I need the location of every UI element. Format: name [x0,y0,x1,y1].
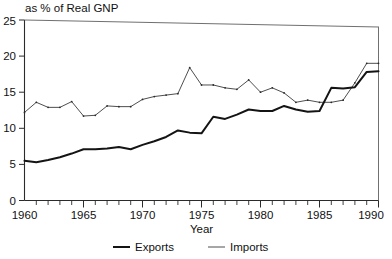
x-tick-label-1960: 1960 [12,209,38,221]
data-point-imports [71,101,73,103]
series-layer [24,62,380,162]
data-point-imports [342,99,344,101]
data-point-imports [59,106,61,108]
data-point-imports [35,101,37,103]
data-point-imports [106,105,108,107]
data-point-imports [283,92,285,94]
y-tick-label-15: 15 [3,86,16,98]
y-axis-ticks: 0 5 10 15 20 25 [3,15,24,207]
data-point-imports [378,62,380,64]
data-point-imports [295,101,297,103]
data-point-imports [236,88,238,90]
data-point-imports [83,115,85,117]
y-tick-label-5: 5 [10,158,16,170]
data-point-imports [366,62,368,64]
y-tick-label-0: 0 [10,195,16,207]
chart-title: as % of Real GNP [25,2,119,14]
data-point-imports [330,101,332,103]
x-axis-title-group: Year [190,223,213,235]
chart-title-group: as % of Real GNP [25,2,119,14]
x-tick-label-1965: 1965 [71,209,97,221]
top-frame-line [25,20,380,27]
y-tick-label-10: 10 [3,122,16,134]
series-markers-imports [24,62,380,117]
x-axis-title: Year [190,223,213,235]
x-tick-label-1990: 1990 [358,209,384,221]
data-point-imports [319,101,321,103]
data-point-imports [201,84,203,86]
chart-figure: as % of Real GNP 0 5 10 15 20 25 [0,0,392,259]
legend-label-imports: Imports [230,241,269,253]
data-point-imports [189,67,191,69]
data-point-imports [271,87,273,89]
x-tick-label-1985: 1985 [307,209,333,221]
data-point-imports [130,106,132,108]
data-point-imports [165,94,167,96]
data-point-imports [307,99,309,101]
x-tick-label-1980: 1980 [248,209,274,221]
y-tick-label-25: 25 [3,15,16,27]
data-point-imports [47,106,49,108]
data-point-imports [260,91,262,93]
series-line-imports [25,63,379,116]
data-point-imports [212,84,214,86]
data-point-imports [94,114,96,116]
x-axis-ticks: 1960 1965 1970 1975 1980 1985 1990 [12,201,384,222]
data-point-imports [153,96,155,98]
data-point-imports [118,106,120,108]
data-point-imports [224,87,226,89]
data-point-imports [248,79,250,81]
x-tick-label-1970: 1970 [130,209,156,221]
legend-label-exports: Exports [135,241,174,253]
data-point-imports [177,93,179,95]
data-point-imports [354,82,356,84]
legend: Exports Imports [113,241,269,253]
line-chart-canvas: as % of Real GNP 0 5 10 15 20 25 [0,0,392,259]
data-point-imports [24,112,26,114]
plot-frame [25,20,380,201]
y-tick-label-20: 20 [3,50,16,62]
data-point-imports [142,99,144,101]
x-tick-label-1975: 1975 [189,209,215,221]
